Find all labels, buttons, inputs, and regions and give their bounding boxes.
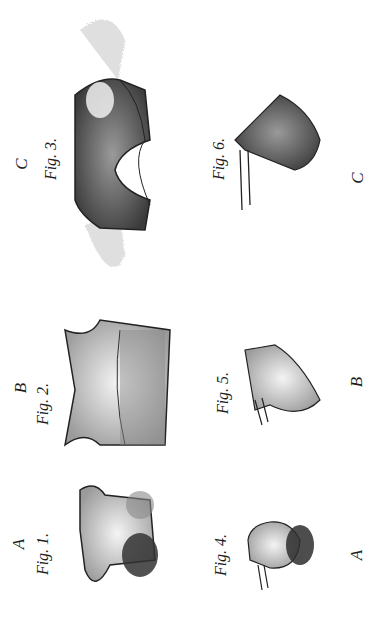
figure-6-label: Fig. 6. (210, 138, 228, 180)
figure-2-label: Fig. 2. (34, 383, 52, 425)
letter-c-bottom: C (348, 172, 368, 183)
figure-3-drawing (75, 20, 150, 268)
figure-2-drawing (65, 320, 170, 445)
figure-5-drawing (245, 345, 320, 425)
figure-6-drawing (235, 95, 320, 210)
plate-drawings (0, 0, 375, 642)
letter-b-bottom: B (347, 377, 367, 387)
letter-c-top: C (12, 158, 32, 169)
letter-a-top: A (9, 539, 29, 549)
figure-5-label: Fig. 5. (214, 372, 232, 414)
letter-a-bottom: A (347, 550, 367, 560)
figure-4-label: Fig. 4. (212, 534, 230, 576)
letter-b-top: B (11, 383, 31, 393)
illustration-plate: C Fig. 3. B Fig. 2. A Fig. 1. Fig. 6. C … (0, 0, 375, 642)
figure-4-drawing (248, 522, 314, 590)
figure-1-label: Fig. 1. (34, 533, 52, 575)
figure-1-drawing (80, 486, 158, 581)
figure-3-label: Fig. 3. (42, 138, 60, 180)
